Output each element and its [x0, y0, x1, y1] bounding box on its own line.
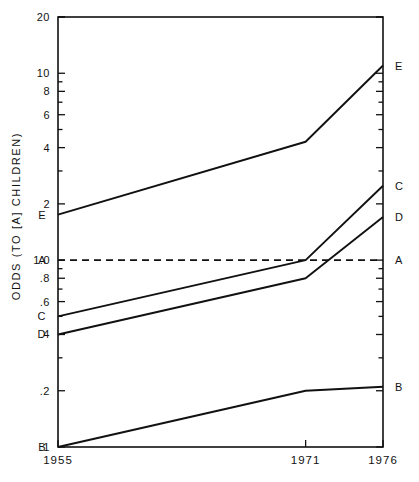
- y-tick-label: 4: [43, 142, 50, 154]
- series-label-left-c: C: [38, 310, 46, 322]
- chart-canvas: 201086421.0.8.6.4.2.1 195519711976 EEAAC…: [0, 0, 419, 482]
- x-axis-ticks: [58, 440, 383, 447]
- y-tick-label: 20: [37, 11, 50, 23]
- x-axis-tick-labels: 195519711976: [43, 454, 398, 466]
- series-label-left-d: D: [38, 328, 46, 340]
- series-line-d: [58, 217, 383, 334]
- series-label-left-a: A: [38, 254, 46, 266]
- y-axis-tick-labels: 201086421.0.8.6.4.2.1: [33, 11, 50, 453]
- y-tick-label: .2: [40, 385, 50, 397]
- x-tick-label: 1971: [291, 454, 321, 466]
- y-tick-label: 10: [37, 67, 50, 79]
- data-lines: [58, 66, 383, 447]
- series-label-left-b: B: [38, 441, 46, 453]
- y-tick-label: .8: [40, 272, 50, 284]
- x-tick-label: 1976: [368, 454, 398, 466]
- series-label-right-b: B: [395, 381, 403, 393]
- series-label-right-d: D: [395, 211, 403, 223]
- series-label-right-c: C: [395, 180, 403, 192]
- x-tick-label: 1955: [43, 454, 73, 466]
- series-label-right-a: A: [395, 254, 403, 266]
- series-endpoint-labels: EEAACCDDBB: [38, 60, 404, 453]
- series-line-b: [58, 387, 383, 447]
- series-label-left-e: E: [38, 209, 46, 221]
- figure: ODDS (TO [A] CHILDREN) 201086421.0.8.6.4…: [0, 0, 419, 482]
- y-tick-label: .6: [40, 296, 50, 308]
- series-line-e: [58, 66, 383, 215]
- series-label-right-e: E: [395, 60, 403, 72]
- y-tick-label: 6: [43, 109, 50, 121]
- y-tick-label: 8: [43, 85, 50, 97]
